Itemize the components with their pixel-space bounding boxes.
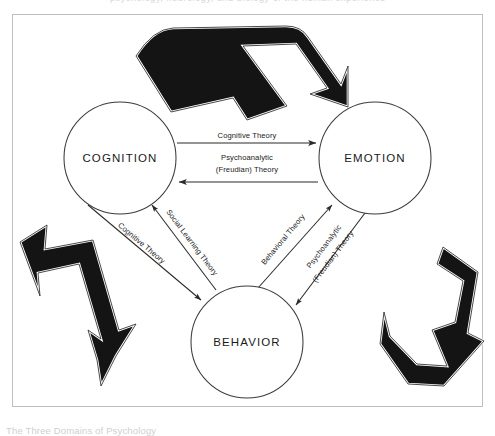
edge-label-cognitive-theory-top: Cognitive Theory (218, 131, 277, 140)
edge-label-social-learning-theory: Social Learning Theory (164, 208, 219, 278)
black-folded-arrow-pointing-up-left-icon (20, 225, 136, 386)
edge-label-psychoanalytic-horizontal-line1: Psychoanalytic (221, 153, 273, 162)
node-emotion-label: EMOTION (344, 152, 405, 164)
edge-behavior-to-cognition (152, 205, 216, 290)
edge-label-psychoanalytic-horizontal-line2: (Freudian) Theory (216, 165, 278, 174)
edge-label-behavioral-theory: Behavioral Theory (259, 212, 307, 266)
black-folded-arrow-pointing-down-left-icon (380, 247, 484, 386)
black-folded-arrow-pointing-right-icon (136, 26, 348, 120)
node-cognition-label: COGNITION (82, 152, 157, 164)
edge-label-cognitive-theory-diagonal: Cognitive Theory (116, 221, 167, 266)
figure-caption: The Three Domains of Psychology (6, 425, 156, 436)
node-behavior-label: BEHAVIOR (213, 336, 280, 348)
node-behavior[interactable]: BEHAVIOR (191, 286, 303, 398)
three-domains-diagram: Cognitive Theory Psychoanalytic (Freudia… (0, 0, 495, 436)
figure-canvas: psychology, neurology, and biology of th… (0, 0, 495, 436)
node-cognition[interactable]: COGNITION (64, 102, 176, 214)
node-emotion[interactable]: EMOTION (319, 102, 431, 214)
